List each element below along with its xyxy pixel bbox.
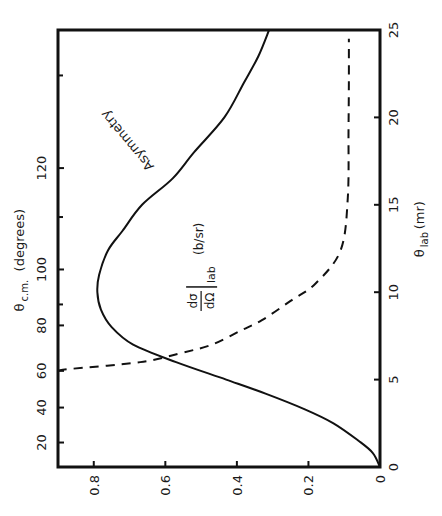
chart: 0510152025 00.20.40.60.8 20406080100120 … — [0, 0, 442, 516]
x-tick-label: 20 — [386, 109, 401, 126]
domega-denominator: dΩ — [203, 293, 217, 310]
asymmetry-curve — [97, 30, 380, 467]
y-tick-label: 0 — [373, 475, 388, 483]
x-tick-label: 10 — [386, 284, 401, 301]
top-tick-label: 80 — [34, 317, 49, 334]
top-axis-title-unit: (degrees) — [12, 209, 27, 271]
x-axis-ticks: 0510152025 — [374, 22, 401, 471]
plot-frame — [58, 30, 380, 467]
y-tick-label: 0.4 — [230, 475, 245, 496]
top-tick-label: 100 — [34, 257, 49, 282]
cross-section-annotation: dσ dΩ lab (b/sr) — [186, 223, 218, 311]
x-tick-label: 5 — [386, 375, 401, 383]
y-tick-label: 0.2 — [301, 475, 316, 496]
top-axis-title-theta: θ — [12, 303, 27, 311]
top-axis-title-sub: c.m. — [19, 280, 30, 302]
lab-subscript: lab — [205, 266, 218, 283]
x-tick-label: 0 — [386, 463, 401, 471]
x-tick-label: 25 — [386, 22, 401, 39]
top-tick-label: 40 — [34, 399, 49, 416]
y-tick-label: 0.6 — [158, 475, 173, 496]
top-tick-label: 20 — [34, 434, 49, 451]
cross-section-unit: (b/sr) — [192, 223, 206, 255]
x-axis-title: θ lab (mr) — [412, 201, 430, 257]
x-axis-title-unit: (mr) — [412, 201, 427, 229]
top-axis-title: θ c.m. (degrees) — [12, 209, 30, 311]
top-tick-label: 60 — [34, 363, 49, 380]
asymmetry-annotation: Asymmetry — [97, 107, 157, 174]
cross-section-curve — [58, 39, 349, 371]
dsigma-numerator: dσ — [186, 293, 200, 309]
x-axis-title-theta: θ — [412, 249, 427, 257]
y-tick-label: 0.8 — [87, 475, 102, 496]
x-axis-title-sub: lab — [419, 232, 430, 247]
top-tick-label: 120 — [34, 156, 49, 181]
x-tick-label: 15 — [386, 197, 401, 214]
